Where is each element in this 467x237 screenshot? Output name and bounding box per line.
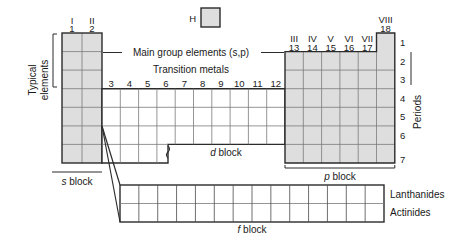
f-block-label: f block (238, 224, 268, 235)
period-label-3: 3 (400, 74, 405, 85)
group-number-17: 17 (362, 42, 373, 53)
group-number-15: 15 (325, 42, 336, 53)
actinides-label: Actinides (390, 207, 431, 218)
s-block-label: s block (61, 176, 93, 187)
group-number-9: 9 (218, 78, 223, 89)
typical-elements-annotation: Typical elements (27, 34, 57, 100)
s-block-group (62, 33, 102, 163)
group-number-14: 14 (307, 42, 318, 53)
p-block-brace (285, 165, 395, 168)
lanthanides-label: Lanthanides (390, 189, 445, 200)
hydrogen-box-shading (201, 8, 220, 27)
period-label-6: 6 (400, 130, 405, 141)
group-labels-left: I II 1 2 (69, 15, 94, 34)
group-labels-middle: 3 4 5 6 7 8 9 10 11 12 (108, 78, 281, 89)
period-labels: 1 2 3 4 5 6 7 Periods (400, 37, 423, 165)
transition-metals-callout: Transition metals (153, 64, 229, 75)
group-number-3: 3 (108, 78, 113, 89)
periodic-table-svg: H I II 1 2 3 4 5 6 7 8 9 10 11 12 III IV… (0, 0, 467, 237)
group-number-8: 8 (200, 78, 205, 89)
f-block-label-word: block (243, 224, 267, 235)
hydrogen-symbol-label: H (189, 13, 196, 24)
period-label-1: 1 (400, 37, 405, 48)
group-number-16: 16 (344, 42, 355, 53)
group-number-10: 10 (234, 78, 245, 89)
noble-gas-column-shading (377, 33, 395, 163)
period-label-7: 7 (400, 154, 405, 165)
s-block-label-word: block (69, 176, 93, 187)
group-number-5: 5 (145, 78, 150, 89)
group-number-4: 4 (127, 78, 132, 89)
group-number-7: 7 (182, 78, 187, 89)
group-number-2: 2 (89, 23, 94, 34)
group-number-13: 13 (289, 42, 300, 53)
group-number-6: 6 (163, 78, 168, 89)
d-block-label-word: block (218, 147, 242, 158)
typical-elements-bracket (53, 34, 57, 87)
d-block-group (102, 89, 285, 163)
period-label-4: 4 (400, 93, 405, 104)
p-block-group (285, 33, 395, 163)
period-label-2: 2 (400, 56, 405, 67)
main-group-callout-label: Main group elements (s,p) (133, 47, 249, 58)
inner-transition-series-labels: Lanthanides Actinides (390, 189, 445, 218)
periods-axis-label: Periods (412, 95, 423, 129)
typical-elements-label-line2: elements (39, 60, 50, 101)
typical-elements-label-line1: Typical (27, 64, 38, 95)
p-block-label-word: block (332, 171, 356, 182)
transition-metals-callout-label: Transition metals (153, 64, 229, 75)
d-block-label: d block (210, 147, 243, 158)
group-number-11: 11 (253, 78, 263, 89)
periodic-table-diagram-page: H I II 1 2 3 4 5 6 7 8 9 10 11 12 III IV… (0, 0, 467, 237)
hydrogen-sample: H (189, 8, 220, 27)
group-number-18: 18 (380, 23, 391, 34)
group-number-1: 1 (69, 23, 74, 34)
period-label-5: 5 (400, 111, 405, 122)
p-block-label: p block (323, 171, 357, 182)
group-number-12: 12 (271, 78, 282, 89)
main-group-callout: Main group elements (s,p) (103, 47, 284, 58)
